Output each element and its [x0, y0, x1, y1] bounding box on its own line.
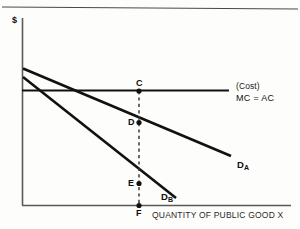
demand-curve-a-letter: D: [237, 159, 244, 170]
figure-canvas: [0, 0, 300, 229]
point-d-label: D: [128, 118, 135, 127]
demand-curve-b-subscript: B: [168, 196, 173, 203]
point-f-label: F: [136, 209, 142, 218]
mc-ac-label: MC = AC: [236, 94, 274, 103]
demand-curve-a-label: DA: [237, 160, 249, 170]
cost-note-label: (Cost): [236, 82, 260, 91]
demand-curve-b-label: DB: [161, 192, 173, 202]
page-top-rule: [2, 7, 298, 9]
public-good-demand-figure: $ QUANTITY OF PUBLIC GOOD X (Cost) MC = …: [0, 0, 300, 229]
point-d-marker: [136, 120, 141, 125]
y-axis-label: $: [12, 16, 17, 25]
x-axis-label: QUANTITY OF PUBLIC GOOD X: [152, 211, 283, 220]
demand-curve-a: [23, 69, 231, 157]
demand-curve-a-subscript: A: [244, 164, 249, 171]
point-c-marker: [136, 88, 141, 93]
demand-curve-b-letter: D: [161, 191, 168, 202]
point-e-marker: [136, 181, 141, 186]
point-c-label: C: [136, 79, 143, 88]
point-e-label: E: [128, 179, 134, 188]
demand-curve-b: [23, 77, 176, 198]
